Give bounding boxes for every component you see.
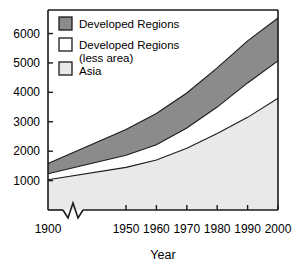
legend-swatch-less-area [59,38,72,51]
x-tick-label: 1950 [113,222,140,236]
legend-label-asia: Asia [79,65,102,77]
y-tick-label: 2000 [13,144,40,158]
x-tick-label: 2000 [265,222,292,236]
x-tick-label: 1960 [143,222,170,236]
legend-label-less-area: Developed Regions [79,39,180,51]
y-tick-label: 5000 [13,56,40,70]
legend-swatch-asia [59,62,72,75]
legend-label-less-area-second-line: (less area) [79,52,133,64]
legend-label-developed-regions: Developed Regions [79,18,180,30]
y-tick-label: 4000 [13,85,40,99]
y-tick-label: 1000 [13,174,40,188]
y-tick-label: 3000 [13,115,40,129]
x-tick-label: 1900 [35,222,62,236]
x-tick-label: 1990 [234,222,261,236]
y-tick-label: 6000 [13,27,40,41]
x-tick-label: 1980 [204,222,231,236]
legend-swatch-developed-regions [59,17,72,30]
population-area-chart: 1900195019601970198019902000 10002000300… [0,0,294,269]
x-tick-label: 1970 [173,222,200,236]
x-axis-title: Year [150,248,175,262]
